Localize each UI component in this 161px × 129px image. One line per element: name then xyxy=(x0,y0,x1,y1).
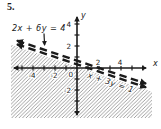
x-tick-label: 4 xyxy=(118,58,123,67)
y-tick-label: 4 xyxy=(66,20,71,29)
x-axis-label: x xyxy=(152,59,158,68)
shaded-region-hatch xyxy=(11,45,152,118)
upper-line-equation-label: 2x + 6y = 4 xyxy=(12,23,66,33)
y-axis-label: y xyxy=(80,11,86,20)
origin-label: 0 xyxy=(68,70,73,79)
y-tick-label: 2 xyxy=(66,42,71,51)
label-pointer-arrow xyxy=(44,34,45,46)
x-tick-label: 2 xyxy=(96,58,101,67)
y-tick-label: -2 xyxy=(64,86,71,95)
x-tick-label: -2 xyxy=(50,71,57,80)
x-tick-label: -4 xyxy=(28,71,36,80)
textbook-graph-figure: 5. -4-22442-20xy2x + 6y = 4x + 3y = 1 xyxy=(0,0,161,129)
inequality-graph: -4-22442-20xy2x + 6y = 4x + 3y = 1 xyxy=(0,0,161,129)
